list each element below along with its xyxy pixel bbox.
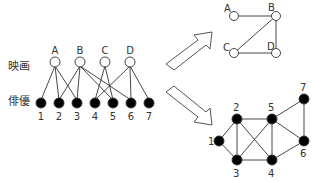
actor-proj-node-1 bbox=[214, 136, 224, 146]
actor-proj-node-2 bbox=[232, 114, 242, 124]
actor-proj-node-7 bbox=[299, 94, 309, 104]
svg-text:7: 7 bbox=[300, 82, 306, 93]
label-6: 6 bbox=[128, 111, 134, 122]
actor-proj-node-3 bbox=[232, 155, 242, 165]
movie-node-a bbox=[50, 57, 60, 67]
actor-node-7 bbox=[144, 98, 154, 108]
svg-text:D: D bbox=[267, 41, 275, 52]
label-c: C bbox=[102, 45, 109, 56]
actors-row-label: 俳優 bbox=[8, 95, 30, 108]
label-4: 4 bbox=[92, 111, 98, 122]
label-2: 2 bbox=[56, 111, 62, 122]
label-a: A bbox=[52, 45, 59, 56]
svg-text:B: B bbox=[268, 2, 275, 13]
actor-proj-node-4 bbox=[267, 155, 277, 165]
svg-text:1: 1 bbox=[208, 136, 214, 147]
label-5: 5 bbox=[110, 111, 116, 122]
bipartite-graph bbox=[36, 57, 154, 108]
movie-node-b bbox=[75, 57, 85, 67]
label-7: 7 bbox=[146, 111, 152, 122]
actor-node-6 bbox=[126, 98, 136, 108]
svg-text:5: 5 bbox=[268, 102, 274, 113]
svg-text:3: 3 bbox=[233, 168, 239, 179]
actor-projection-graph bbox=[214, 94, 309, 165]
movie-projection-labels: A B C D bbox=[223, 2, 275, 53]
actor-node-1 bbox=[36, 98, 46, 108]
actor-projection-labels: 1 2 3 4 5 6 7 bbox=[208, 82, 306, 179]
network-diagram: 映画 俳優 A B C D 1 2 3 4 5 6 7 bbox=[0, 0, 315, 181]
arrow-up-right-icon bbox=[166, 32, 212, 70]
svg-text:A: A bbox=[224, 3, 231, 14]
actor-proj-node-6 bbox=[299, 136, 309, 146]
actor-proj-node-5 bbox=[267, 114, 277, 124]
actor-node-5 bbox=[108, 98, 118, 108]
svg-text:6: 6 bbox=[300, 148, 306, 159]
label-b: B bbox=[77, 45, 84, 56]
svg-text:C: C bbox=[223, 42, 230, 53]
bipartite-labels: A B C D 1 2 3 4 5 6 7 bbox=[38, 45, 152, 122]
actor-node-3 bbox=[72, 98, 82, 108]
movie-node-c bbox=[100, 57, 110, 67]
svg-text:2: 2 bbox=[233, 102, 239, 113]
actor-node-2 bbox=[54, 98, 64, 108]
movie-proj-node-a bbox=[230, 12, 239, 21]
actor-node-4 bbox=[90, 98, 100, 108]
movie-proj-node-c bbox=[230, 49, 239, 58]
movies-row-label: 映画 bbox=[8, 60, 30, 73]
movie-node-d bbox=[125, 57, 135, 67]
label-1: 1 bbox=[38, 111, 44, 122]
arrow-down-right-icon bbox=[166, 86, 212, 125]
label-d: D bbox=[126, 45, 134, 56]
svg-text:4: 4 bbox=[268, 168, 274, 179]
label-3: 3 bbox=[74, 111, 80, 122]
